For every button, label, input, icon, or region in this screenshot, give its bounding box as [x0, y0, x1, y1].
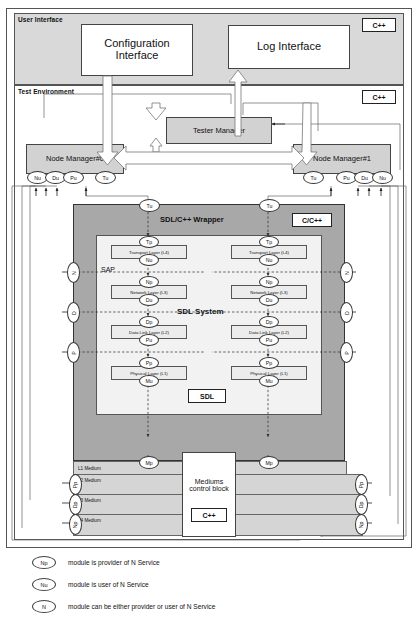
configuration-interface-box[interactable]: Configuration Interface — [81, 24, 193, 76]
legend-symbol-np: Np — [32, 556, 56, 569]
sap-port-right-d-label: D — [344, 311, 350, 315]
sdl-cpp-wrapper-label: SDL/C++ Wrapper — [160, 215, 224, 224]
port-r-np: Np — [259, 276, 279, 288]
medium-port-left-np-label: Np — [72, 521, 78, 528]
port-l-du: Du — [139, 294, 159, 306]
log-interface-box[interactable]: Log Interface — [228, 25, 350, 69]
sap-port-left-p-label: P — [71, 351, 77, 354]
port-nm1-tu: Tu — [303, 171, 324, 184]
port-l-mu: Mu — [139, 375, 159, 387]
port-r-tp: Tp — [259, 236, 279, 248]
medium-port-right-pp-label: Pp — [358, 481, 364, 487]
sap-port-left-n: N — [67, 262, 80, 283]
port-l-dp: Dp — [139, 316, 159, 328]
tester-manager-box[interactable]: Tester Manager — [166, 117, 272, 144]
sap-port-right-p-label: P — [344, 351, 350, 354]
legend-text-n: module can be either provider or user of… — [68, 603, 215, 610]
sap-port-left-d-label: D — [71, 311, 77, 315]
port-l-pp: Pp — [139, 357, 159, 369]
port-mp-left: Mp — [139, 456, 159, 469]
badge-sdl: SDL — [188, 389, 226, 403]
medium-label-l1: L1 Medium — [78, 466, 101, 471]
port-r-pu: Pu — [259, 334, 279, 346]
architecture-diagram: User Interface C++ Test Environment C++ … — [0, 0, 418, 619]
medium-port-right-np: Np — [355, 514, 368, 535]
node-manager-0-box[interactable]: Node Manager#0 — [26, 144, 124, 174]
port-mp-right: Mp — [259, 456, 279, 469]
legend-item-nu: Nu module is user of N Service — [32, 578, 149, 591]
legend-item-np: Np module is provider of N Service — [32, 556, 160, 569]
sap-port-left-d: D — [67, 302, 80, 323]
port-nm0-pu: Pu — [63, 171, 84, 184]
medium-port-left-pp-label: Pp — [72, 481, 78, 487]
badge-test-environment-cpp: C++ — [362, 90, 396, 104]
port-r-dp: Dp — [259, 316, 279, 328]
sap-port-right-p: P — [340, 342, 353, 363]
sap-label: SAP — [101, 266, 115, 273]
port-wrapper-tu-left: Tu — [139, 199, 160, 212]
medium-port-right-np-label: Np — [358, 521, 364, 528]
sap-port-right-n: N — [340, 262, 353, 283]
mediums-control-block[interactable]: Mediums control block — [182, 452, 236, 537]
port-r-mu: Mu — [259, 375, 279, 387]
legend-symbol-n: N — [32, 600, 56, 613]
port-l-tp: Tp — [139, 236, 159, 248]
legend-text-np: module is provider of N Service — [68, 559, 160, 566]
port-r-nu: Nu — [259, 254, 279, 266]
medium-port-left-dp: Dp — [69, 494, 82, 515]
sap-port-right-d: D — [340, 302, 353, 323]
medium-port-right-pp: Pp — [355, 474, 368, 495]
medium-port-left-pp: Pp — [69, 474, 82, 495]
legend-text-nu: module is user of N Service — [68, 581, 149, 588]
port-nm1-nu: Nu — [372, 171, 393, 184]
medium-port-left-np: Np — [69, 514, 82, 535]
node-manager-1-box[interactable]: Node Manager#1 — [293, 144, 391, 174]
sdl-system-label: SDL System — [177, 307, 224, 316]
badge-mediums-control-cpp: C++ — [191, 508, 227, 522]
port-l-nu: Nu — [139, 254, 159, 266]
port-l-np: Np — [139, 276, 159, 288]
port-r-du: Du — [259, 294, 279, 306]
sap-port-left-p: P — [67, 342, 80, 363]
band-test-environment-label: Test Environment — [18, 88, 74, 95]
medium-port-right-dp: Dp — [355, 494, 368, 515]
legend-item-n: N module can be either provider or user … — [32, 600, 215, 613]
port-l-pu: Pu — [139, 334, 159, 346]
band-user-interface-label: User Interface — [18, 16, 63, 23]
comparison-link-label: Comparison link — [178, 155, 217, 161]
badge-user-interface-cpp: C++ — [362, 18, 396, 32]
port-nm0-tu: Tu — [95, 171, 116, 184]
port-wrapper-tu-right: Tu — [259, 199, 280, 212]
port-r-pp: Pp — [259, 357, 279, 369]
legend-symbol-nu: Nu — [32, 578, 56, 591]
medium-port-left-dp-label: Dp — [72, 501, 78, 508]
medium-port-right-dp-label: Dp — [358, 501, 364, 508]
sap-port-right-n-label: N — [344, 271, 350, 275]
badge-wrapper-ccpp: C/C++ — [292, 213, 332, 227]
sap-port-left-n-label: N — [71, 271, 77, 275]
